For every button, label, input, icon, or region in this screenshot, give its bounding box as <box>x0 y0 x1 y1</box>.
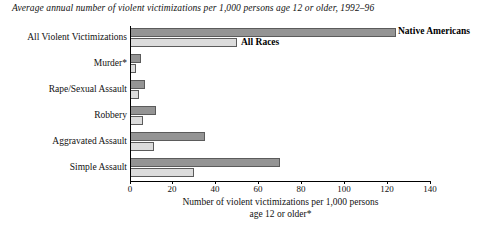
y-axis-label-all-violent-victimizations: All Violent Victimizations <box>1 32 127 42</box>
bar-native-americans-rape-sexual-assault <box>130 80 145 89</box>
bar-all-races-simple-assault <box>130 168 194 177</box>
plot-area <box>130 26 430 181</box>
x-axis-tick-label-60: 60 <box>243 184 273 194</box>
legend-label-native-americans: Native Americans <box>398 26 470 36</box>
bar-all-races-rape-sexual-assault <box>130 90 139 99</box>
bar-native-americans-robbery <box>130 106 156 115</box>
bar-native-americans-simple-assault <box>130 158 280 167</box>
x-axis-tick-label-80: 80 <box>286 184 316 194</box>
y-axis-label-simple-assault: Simple Assault <box>1 162 127 172</box>
x-axis-title-line-2: age 12 or older* <box>130 209 431 221</box>
y-axis-category-labels: All Violent Victimizations Murder* Rape/… <box>0 26 127 181</box>
y-axis-label-murder: Murder* <box>1 58 127 68</box>
x-axis-tick-label-20: 20 <box>157 184 187 194</box>
x-axis-line <box>130 181 431 182</box>
bar-all-races-all-violent-victimizations <box>130 38 237 47</box>
x-axis-tick-label-100: 100 <box>329 184 359 194</box>
bar-all-races-aggravated-assault <box>130 142 154 151</box>
legend-label-all-races: All Races <box>241 37 279 47</box>
chart-title: Average annual number of violent victimi… <box>12 3 374 13</box>
x-axis-tick-label-0: 0 <box>115 184 145 194</box>
x-axis-tick-label-120: 120 <box>372 184 402 194</box>
y-axis-label-robbery: Robbery <box>1 110 127 120</box>
x-axis-tick-label-140: 140 <box>415 184 445 194</box>
bar-native-americans-murder <box>130 54 141 63</box>
y-axis-label-rape-sexual-assault: Rape/Sexual Assault <box>1 84 127 94</box>
bar-native-americans-all-violent-victimizations <box>130 28 396 37</box>
y-axis-line <box>130 26 131 181</box>
x-axis-title-line-1: Number of violent victimizations per 1,0… <box>130 197 431 209</box>
x-axis-tick-label-40: 40 <box>200 184 230 194</box>
y-axis-label-aggravated-assault: Aggravated Assault <box>1 136 127 146</box>
x-axis-title: Number of violent victimizations per 1,0… <box>130 197 431 220</box>
bar-all-races-robbery <box>130 116 143 125</box>
chart-container: Average annual number of violent victimi… <box>0 0 497 229</box>
bar-native-americans-aggravated-assault <box>130 132 205 141</box>
